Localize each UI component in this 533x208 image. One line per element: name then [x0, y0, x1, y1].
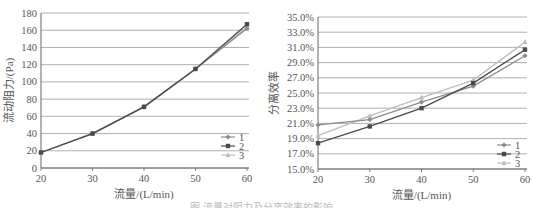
y-tick-label: 80: [27, 94, 38, 105]
series-2-marker-icon: [39, 150, 43, 154]
y-tick-label: 33.0%: [287, 27, 314, 38]
x-tick-label: 20: [36, 173, 47, 184]
y-tick-label: 100: [21, 76, 37, 87]
series-3: [315, 39, 527, 137]
y-tick-label: 25.0%: [287, 88, 314, 99]
gridlines: [41, 13, 249, 168]
legend-1-marker-icon: [501, 142, 506, 147]
series-2-marker-icon: [316, 141, 320, 145]
y-tick-label: 19.0%: [287, 133, 314, 144]
flow-resistance-plot: 0204060801001201401601802030405060流量/(L/…: [0, 0, 262, 208]
series-2-marker-icon: [142, 105, 146, 109]
x-tick-label: 60: [520, 174, 531, 185]
figure-caption: 图 流量对阻力及分离效率的影响: [190, 199, 350, 208]
series-2-marker-icon: [193, 67, 197, 71]
gridlines: [318, 17, 527, 169]
y-tick-label: 20: [27, 145, 38, 156]
legend-1-marker-icon: [225, 134, 230, 139]
y-tick-label: 120: [21, 59, 37, 70]
y-tick-label: 21.0%: [287, 118, 314, 129]
x-tick-label: 40: [139, 173, 150, 184]
y-tick-label: 15.0%: [287, 164, 314, 175]
series-2-marker-icon: [90, 131, 94, 135]
x-tick-label: 30: [87, 173, 98, 184]
series-2-marker-icon: [419, 106, 423, 110]
x-tick-label: 20: [313, 174, 324, 185]
y-tick-label: 0: [32, 163, 37, 174]
y-tick-label: 27.0%: [287, 72, 314, 83]
y-tick-label: 180: [21, 8, 37, 19]
legend-label: 3: [239, 150, 244, 161]
y-tick-label: 160: [21, 25, 37, 36]
x-axis-label: 流量/(L/min): [392, 188, 452, 202]
separation-efficiency-plot: 15.0%17.0%19.0%21.0%23.0%25.0%27.0%29.0%…: [262, 0, 533, 208]
series-2-marker-icon: [523, 47, 527, 51]
flow-resistance-chart: 0204060801001201401601802030405060流量/(L/…: [0, 0, 262, 208]
legend-2-marker-icon: [502, 152, 506, 156]
series-1-marker-icon: [419, 100, 424, 105]
series-3-marker-icon: [522, 39, 527, 44]
y-tick-label: 140: [21, 42, 37, 53]
y-tick-label: 29.0%: [287, 57, 314, 68]
series-3: [38, 24, 249, 155]
series-2: [39, 22, 249, 155]
y-tick-label: 17.0%: [287, 148, 314, 159]
x-tick-label: 50: [190, 173, 201, 184]
series-2-marker-icon: [471, 81, 475, 85]
series-2-marker-icon: [245, 22, 249, 26]
legend: 123: [221, 132, 244, 161]
y-axis-label: 流动阻力/(Pa): [2, 57, 16, 123]
series-2-marker-icon: [368, 124, 372, 128]
y-axis-label: 分离效率: [267, 71, 280, 115]
separation-efficiency-chart: 15.0%17.0%19.0%21.0%23.0%25.0%27.0%29.0%…: [262, 0, 533, 208]
y-tick-label: 60: [27, 111, 38, 122]
x-tick-label: 30: [365, 174, 376, 185]
x-tick-label: 60: [242, 173, 253, 184]
y-tick-label: 40: [27, 128, 38, 139]
x-tick-label: 40: [416, 174, 427, 185]
legend-item-3: 3: [497, 158, 520, 169]
y-tick-label: 31.0%: [287, 42, 314, 53]
legend-2-marker-icon: [226, 144, 230, 148]
y-tick-label: 23.0%: [287, 103, 314, 114]
legend-label: 3: [515, 158, 520, 169]
legend: 123: [497, 140, 520, 169]
y-tick-label: 35.0%: [287, 12, 314, 23]
x-tick-label: 50: [468, 174, 479, 185]
x-axis-label: 流量/(L/min): [114, 187, 174, 201]
series-1: [38, 26, 249, 155]
